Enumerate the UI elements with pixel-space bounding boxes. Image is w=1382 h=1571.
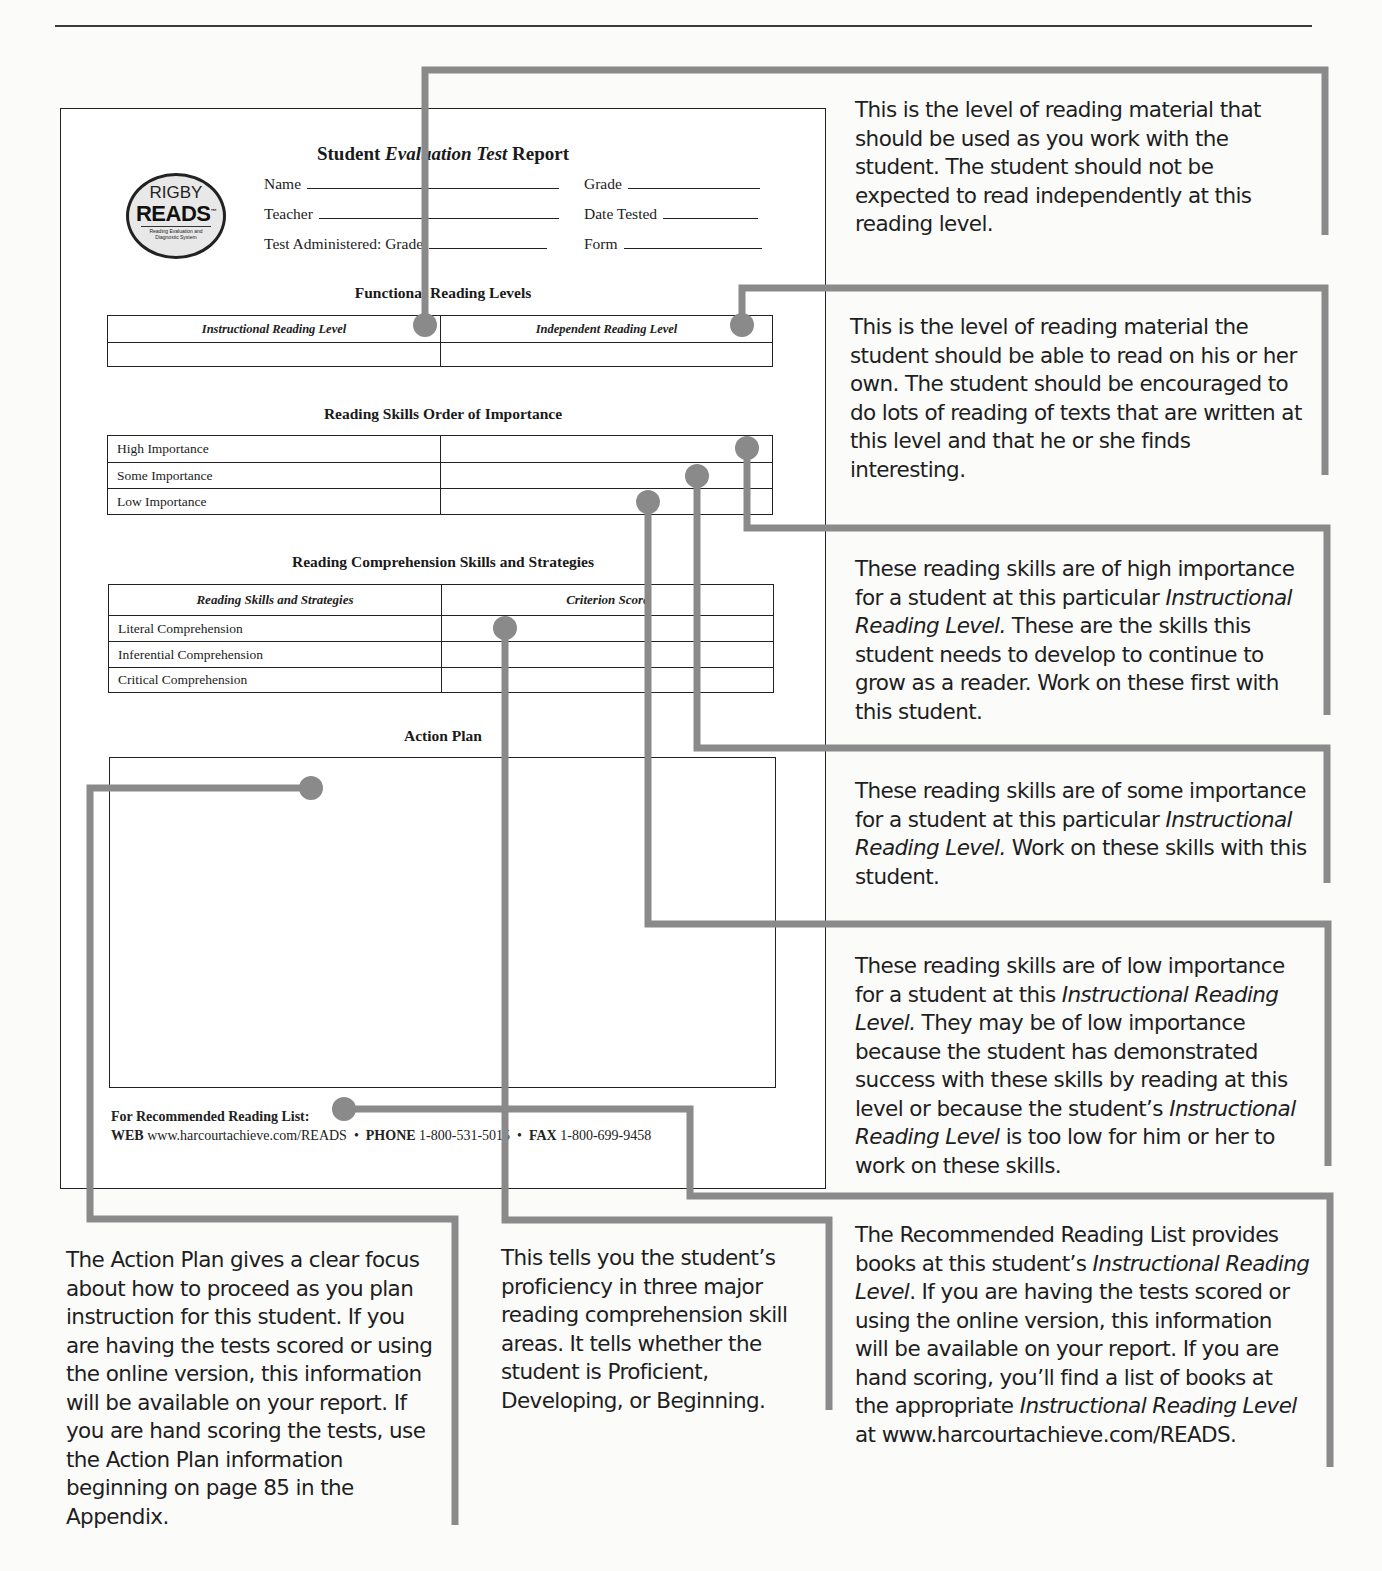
instructional-level-value[interactable] [108,343,441,367]
literal-comprehension-score[interactable] [442,616,774,642]
table-row: Literal Comprehension [109,616,774,642]
literal-comprehension-label: Literal Comprehension [109,616,442,642]
form-field[interactable]: Form [584,235,762,253]
action-plan-callout: The Action Plan gives a clear focus abou… [66,1246,436,1531]
table-row: High Importance [108,436,773,463]
critical-comprehension-label: Critical Comprehension [109,668,442,693]
name-field[interactable]: Name [264,175,559,193]
comprehension-table: Reading Skills and Strategies Criterion … [108,584,774,693]
low-importance-value[interactable] [441,489,773,515]
inferential-comprehension-score[interactable] [442,642,774,668]
top-rule [55,25,1312,27]
instructional-level-header: Instructional Reading Level [108,316,441,343]
skills-strategies-header: Reading Skills and Strategies [109,585,442,616]
phone-number: 1-800-531-5015 [419,1128,510,1143]
low-importance-label: Low Importance [108,489,441,515]
contact-line: WEB www.harcourtachieve.com/READS • PHON… [111,1128,651,1144]
some-importance-value[interactable] [441,463,773,489]
functional-levels-title: Functional Reading Levels [61,284,825,302]
some-importance-callout: These reading skills are of some importa… [855,777,1315,891]
independent-level-header: Independent Reading Level [441,316,773,343]
high-importance-label: High Importance [108,436,441,463]
student-evaluation-report-sheet: Student Evaluation Test Report RIGBY REA… [60,108,826,1189]
web-link[interactable]: www.harcourtachieve.com/READS [147,1128,347,1143]
date-tested-field[interactable]: Date Tested [584,205,758,223]
action-plan-title: Action Plan [61,727,825,745]
test-administered-grade-field[interactable]: Test Administered: Grade [264,235,547,253]
high-importance-value[interactable] [441,436,773,463]
table-row: Some Importance [108,463,773,489]
criterion-score-header: Criterion Score [442,585,774,616]
high-importance-callout: These reading skills are of high importa… [855,555,1315,726]
independent-level-value[interactable] [441,343,773,367]
table-row: Inferential Comprehension [109,642,774,668]
critical-comprehension-score[interactable] [442,668,774,693]
grade-field[interactable]: Grade [584,175,760,193]
reading-list-callout: The Recommended Reading List provides bo… [855,1221,1310,1449]
low-importance-callout: These reading skills are of low importan… [855,952,1310,1180]
comprehension-callout: This tells you the student’s proficiency… [501,1244,811,1415]
reading-list-heading: For Recommended Reading List: [111,1109,309,1125]
inferential-comprehension-label: Inferential Comprehension [109,642,442,668]
comprehension-title: Reading Comprehension Skills and Strateg… [61,553,825,571]
functional-levels-table: Instructional Reading Level Independent … [107,315,773,367]
table-row: Critical Comprehension [109,668,774,693]
skills-importance-title: Reading Skills Order of Importance [61,405,825,423]
action-plan-box[interactable] [109,757,776,1088]
independent-level-callout: This is the level of reading material th… [850,313,1305,484]
instructional-level-callout: This is the level of reading material th… [855,96,1305,239]
table-row: Low Importance [108,489,773,515]
some-importance-label: Some Importance [108,463,441,489]
report-title: Student Evaluation Test Report [61,143,825,165]
fax-number: 1-800-699-9458 [560,1128,651,1143]
skills-importance-table: High Importance Some Importance Low Impo… [107,435,773,515]
rigby-reads-logo: RIGBY READS™ Reading Evaluation and Diag… [126,173,226,259]
teacher-field[interactable]: Teacher [264,205,559,223]
